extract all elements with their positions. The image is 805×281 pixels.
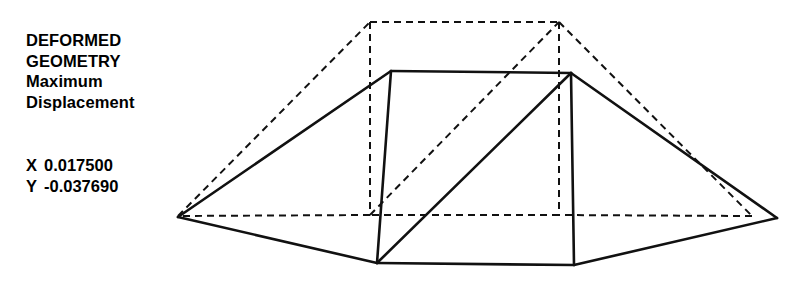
undeformed-edge-bottom_left-to-left_apex xyxy=(178,215,370,216)
deformed-edge-left_apex-to-top_left xyxy=(178,71,391,217)
geometry-canvas xyxy=(0,0,805,281)
deformed-edge-top_right-to-bottom_right xyxy=(571,73,574,265)
deformed-edge-top_left-to-bottom_left xyxy=(377,71,391,263)
deformed-edge-bottom_left-to-left_apex xyxy=(178,217,377,263)
undeformed-edge-left_apex-to-top_left xyxy=(178,22,370,216)
undeformed-geometry-wireframe xyxy=(178,22,752,216)
undeformed-edge-bottom_left-to-top_right xyxy=(370,22,559,215)
undeformed-edge-top_right-to-right_apex xyxy=(559,22,752,216)
deformed-edge-bottom_right-to-bottom_left xyxy=(377,263,574,265)
deformed-geometry-figure: DEFORMED GEOMETRY Maximum Displacement X… xyxy=(0,0,805,281)
deformed-edge-top_right-to-right_apex xyxy=(571,73,777,218)
deformed-edge-right_apex-to-bottom_right xyxy=(574,218,777,265)
deformed-geometry-wireframe xyxy=(178,71,777,265)
deformed-edge-top_left-to-top_right xyxy=(391,71,571,73)
undeformed-edge-right_apex-to-bottom_right xyxy=(559,215,752,216)
deformed-edge-bottom_left-to-top_right xyxy=(377,73,571,263)
